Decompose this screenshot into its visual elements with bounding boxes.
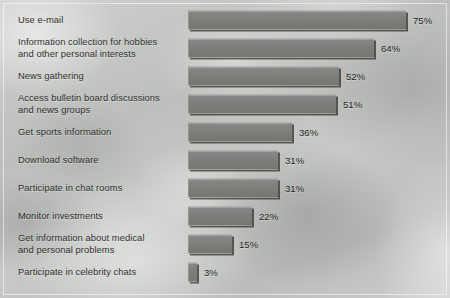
category-label-line: and other personal interests xyxy=(18,48,186,60)
category-label: Access bulletin board discussionsand new… xyxy=(18,92,186,116)
chart-row: Participate in chat rooms31% xyxy=(0,174,450,202)
chart-row: Participate in celebrity chats3% xyxy=(0,258,450,286)
category-label: Use e-mail xyxy=(18,14,186,26)
bar-group: 22% xyxy=(188,207,278,226)
category-label: Participate in celebrity chats xyxy=(18,266,186,278)
chart-row: Get sports information36% xyxy=(0,118,450,146)
bar-value-label: 31% xyxy=(285,183,304,194)
bar xyxy=(188,179,278,198)
category-label-line: Participate in celebrity chats xyxy=(18,266,186,278)
category-label: News gathering xyxy=(18,70,186,82)
bar xyxy=(188,11,406,30)
bar xyxy=(188,151,278,170)
bar xyxy=(188,263,197,282)
bar-group: 15% xyxy=(188,235,258,254)
chart-row: Monitor investments22% xyxy=(0,202,450,230)
bar xyxy=(188,39,374,58)
bar-group: 64% xyxy=(188,39,400,58)
bar-value-label: 31% xyxy=(285,155,304,166)
bar-value-label: 64% xyxy=(381,43,400,54)
bar-group: 31% xyxy=(188,179,304,198)
bar xyxy=(188,123,292,142)
category-label: Get information about medicaland persona… xyxy=(18,232,186,256)
bar-value-label: 75% xyxy=(413,15,432,26)
category-label: Monitor investments xyxy=(18,210,186,222)
bar-value-label: 15% xyxy=(239,239,258,250)
category-label-line: Monitor investments xyxy=(18,210,186,222)
category-label-line: and news groups xyxy=(18,104,186,116)
category-label-line: Get information about medical xyxy=(18,232,186,244)
category-label-line: Participate in chat rooms xyxy=(18,182,186,194)
category-label: Get sports information xyxy=(18,126,186,138)
category-label-line: Access bulletin board discussions xyxy=(18,92,186,104)
chart-row: News gathering52% xyxy=(0,62,450,90)
bar-value-label: 52% xyxy=(346,71,365,82)
category-label: Information collection for hobbiesand ot… xyxy=(18,36,186,60)
bar-value-label: 36% xyxy=(299,127,318,138)
chart-row: Use e-mail75% xyxy=(0,6,450,34)
category-label-line: Information collection for hobbies xyxy=(18,36,186,48)
bar-value-label: 51% xyxy=(343,99,362,110)
bar-value-label: 3% xyxy=(204,267,218,278)
category-label-line: News gathering xyxy=(18,70,186,82)
bar-group: 36% xyxy=(188,123,318,142)
bar-group: 51% xyxy=(188,95,362,114)
bar-group: 31% xyxy=(188,151,304,170)
chart-row: Download software31% xyxy=(0,146,450,174)
plot-area: Use e-mail75%Information collection for … xyxy=(0,0,450,298)
bar xyxy=(188,235,232,254)
category-label-line: Use e-mail xyxy=(18,14,186,26)
bar-chart: Use e-mail75%Information collection for … xyxy=(0,0,450,298)
bar xyxy=(188,67,339,86)
bar xyxy=(188,95,336,114)
bar-value-label: 22% xyxy=(259,211,278,222)
chart-row: Get information about medicaland persona… xyxy=(0,230,450,258)
chart-row: Access bulletin board discussionsand new… xyxy=(0,90,450,118)
chart-row: Information collection for hobbiesand ot… xyxy=(0,34,450,62)
category-label-line: Get sports information xyxy=(18,126,186,138)
category-label: Participate in chat rooms xyxy=(18,182,186,194)
category-label: Download software xyxy=(18,154,186,166)
category-label-line: Download software xyxy=(18,154,186,166)
bar xyxy=(188,207,252,226)
bar-group: 52% xyxy=(188,67,365,86)
category-label-line: and personal problems xyxy=(18,244,186,256)
bar-group: 3% xyxy=(188,263,218,282)
bar-group: 75% xyxy=(188,11,432,30)
